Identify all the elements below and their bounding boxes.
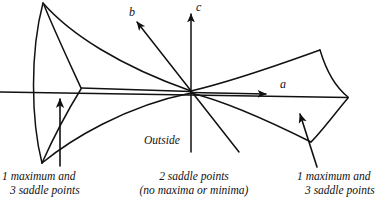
b-axis-line — [137, 22, 239, 152]
center-region-caption-line1: 2 saddle points — [124, 170, 264, 184]
left-inner-lower-curve — [42, 89, 81, 163]
left-region-caption: 1 maximum and 3 saddle points — [2, 170, 80, 197]
right-upper-curve — [191, 50, 320, 91]
a-axis-arrow-line — [191, 93, 266, 95]
left-outer-upper-curve — [43, 3, 191, 91]
left-inner-upper-curve — [44, 5, 81, 88]
center-region-caption: 2 saddle points (no maxima or minima) — [124, 170, 264, 197]
left-outer-lower-curve — [42, 93, 191, 163]
pointer-arrows — [60, 99, 317, 167]
right-region-pointer — [300, 114, 317, 167]
right-region-caption: 1 maximum and 3 saddle points — [297, 170, 375, 197]
c-axis-label: c — [196, 0, 201, 14]
right-top-to-far-curve — [320, 50, 348, 97]
right-region-caption-line1: 1 maximum and — [297, 170, 375, 184]
left-region-caption-line1: 1 maximum and — [2, 170, 80, 184]
left-region-caption-line2: 3 saddle points — [2, 184, 80, 198]
left-outer-left-curve — [34, 3, 44, 163]
right-region-caption-line2: 3 saddle points — [297, 184, 375, 198]
outside-region-label: Outside — [144, 134, 180, 148]
left-inner-horizontal-curve — [81, 88, 191, 92]
a-axis-label: a — [280, 77, 286, 91]
axis-lines — [0, 14, 348, 152]
center-region-caption-line2: (no maxima or minima) — [124, 184, 264, 198]
right-lower-curve — [191, 93, 311, 142]
b-axis-label: b — [129, 5, 135, 19]
right-bottom-to-far-curve — [311, 98, 348, 142]
